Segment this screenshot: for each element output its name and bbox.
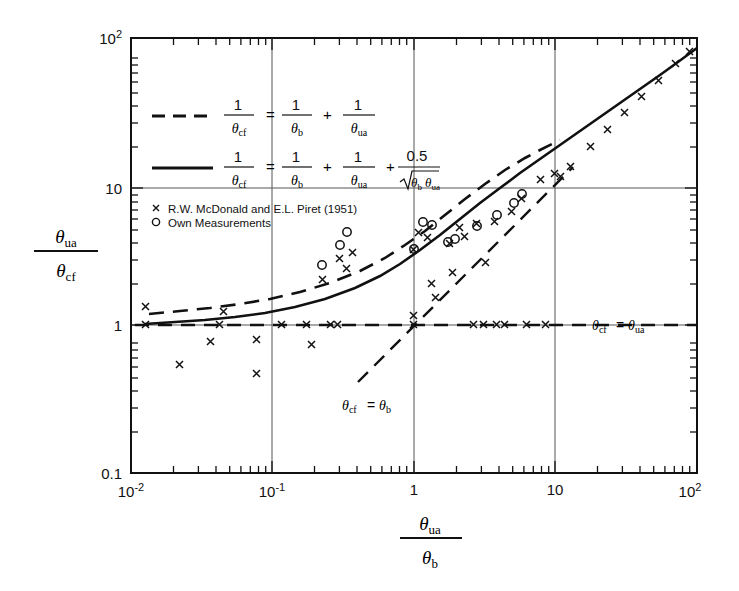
x-tick-label-1: 10-1 bbox=[259, 481, 285, 500]
legend2-plus1: + bbox=[323, 158, 332, 175]
legend2-plus2: + bbox=[386, 158, 395, 175]
x-tick-label-0: 10-2 bbox=[118, 481, 144, 500]
legend2-num1: 1 bbox=[234, 148, 242, 165]
legend2-num3: 1 bbox=[354, 148, 362, 165]
legend-x-marker-label: R.W. McDonald and E.L. Piret (1951) bbox=[168, 203, 357, 215]
x-tick-labels: 10-2 10-1 1 10 102 bbox=[118, 481, 702, 500]
x-axis-title: θua θb bbox=[400, 513, 462, 571]
figure-container: 1 θcf = 1 θb + 1 θua 1 θcf = 1 bbox=[0, 0, 739, 591]
legend1-equals: = bbox=[266, 106, 275, 123]
x-axis-denominator: θb bbox=[422, 547, 438, 571]
y-axis-numerator: θua bbox=[55, 226, 77, 250]
y-tick-label-0: 0.1 bbox=[101, 465, 122, 482]
annot-h-eq: = bbox=[616, 317, 624, 333]
legend2-num4: 0.5 bbox=[407, 147, 428, 164]
x-axis-numerator: θua bbox=[419, 513, 441, 537]
x-tick-label-2: 1 bbox=[410, 481, 418, 498]
chart-svg: 1 θcf = 1 θb + 1 θua 1 θcf = 1 bbox=[0, 0, 739, 591]
y-tick-label-2: 10 bbox=[105, 180, 122, 197]
y-axis-denominator: θcf bbox=[56, 260, 76, 284]
legend-o-marker-label: Own Measurements bbox=[168, 217, 271, 229]
y-tick-labels: 0.1 1 10 102 bbox=[99, 28, 122, 482]
legend-marker-row-x[interactable]: R.W. McDonald and E.L. Piret (1951) bbox=[153, 203, 357, 215]
legend2-num2: 1 bbox=[292, 148, 300, 165]
legend2-equals: = bbox=[266, 158, 275, 175]
legend1-num1: 1 bbox=[234, 96, 242, 113]
y-tick-label-3: 102 bbox=[99, 28, 122, 47]
y-tick-label-1: 1 bbox=[114, 317, 122, 334]
annot-d-eq: = bbox=[367, 397, 375, 413]
legend1-plus: + bbox=[323, 106, 332, 123]
legend1-num3: 1 bbox=[354, 96, 362, 113]
x-tick-label-3: 10 bbox=[547, 481, 564, 498]
y-axis-title: θua θcf bbox=[34, 226, 98, 284]
legend1-num2: 1 bbox=[292, 96, 300, 113]
legend-marker-row-o[interactable]: Own Measurements bbox=[152, 217, 271, 229]
x-tick-label-4: 102 bbox=[679, 481, 702, 500]
